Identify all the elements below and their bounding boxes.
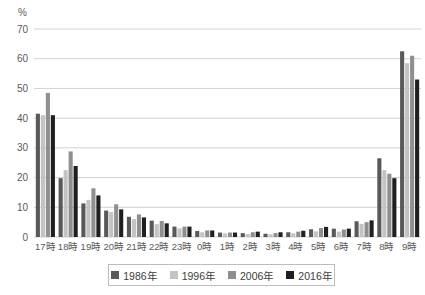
x-tick-label-19時: 19時: [81, 241, 102, 252]
bar-1996年-19時: [86, 200, 90, 237]
bar-1986年-19時: [81, 203, 85, 237]
bar-1986年-17時: [36, 114, 40, 237]
bar-1996年-7時: [360, 224, 364, 237]
bar-2016年-5時: [324, 227, 328, 237]
x-tick-labels: 17時18時19時20時21時22時23時0時1時2時3時4時5時6時7時8時9…: [35, 241, 417, 252]
x-tick-label-23時: 23時: [172, 241, 193, 252]
bar-2006年-4時: [296, 232, 300, 237]
bar-2016年-7時: [370, 220, 374, 237]
bar-2006年-3時: [273, 233, 277, 237]
bar-1996年-23時: [177, 228, 181, 237]
bar-1986年-9時: [400, 51, 404, 237]
bar-1996年-18時: [64, 170, 68, 237]
x-tick-label-4時: 4時: [288, 241, 303, 252]
y-tick-label-0: 0: [22, 232, 28, 243]
bar-2006年-6時: [342, 230, 346, 237]
legend-label: 1996年: [182, 268, 215, 283]
bar-2016年-18時: [74, 166, 78, 237]
x-tick-label-8時: 8時: [379, 241, 394, 252]
x-tick-label-20時: 20時: [103, 241, 124, 252]
legend-item-1986: 1986年: [111, 268, 156, 283]
bar-1996年-3時: [268, 234, 272, 237]
bar-1996年-17時: [41, 115, 45, 237]
bar-2006年-20時: [114, 204, 118, 237]
x-tick-label-18時: 18時: [58, 241, 79, 252]
bar-2016年-21時: [142, 217, 146, 237]
legend-swatch: [111, 271, 119, 279]
bar-1986年-20時: [104, 211, 108, 237]
bar-1996年-1時: [223, 233, 227, 237]
bar-1996年-2時: [246, 234, 250, 237]
bar-1996年-8時: [382, 170, 386, 237]
bar-2006年-8時: [387, 174, 391, 237]
legend-swatch: [228, 271, 236, 279]
hourly-rate-bar-chart: % 010203040506070 17時18時19時20時21時22時23時0…: [0, 0, 425, 295]
y-axis-unit-label: %: [18, 7, 27, 18]
x-tick-label-2時: 2時: [243, 241, 258, 252]
bar-2006年-2時: [251, 232, 255, 237]
bar-2016年-1時: [233, 233, 237, 237]
y-tick-label-10: 10: [17, 202, 29, 213]
bar-2006年-9時: [410, 56, 414, 237]
bar-1996年-22時: [155, 224, 159, 237]
y-tick-label-70: 70: [17, 24, 29, 35]
bar-chart-svg: % 010203040506070 17時18時19時20時21時22時23時0…: [0, 0, 425, 295]
bar-2016年-23時: [187, 227, 191, 237]
bar-2016年-22時: [165, 223, 169, 237]
legend-swatch: [170, 271, 178, 279]
bar-1996年-20時: [109, 212, 113, 237]
bar-2016年-8時: [392, 178, 396, 237]
bar-2016年-2時: [256, 232, 260, 237]
bar-2006年-5時: [319, 228, 323, 237]
bar-1996年-0時: [200, 232, 204, 237]
bar-2016年-17時: [51, 115, 55, 237]
x-tick-label-17時: 17時: [35, 241, 56, 252]
bar-2006年-19時: [91, 188, 95, 237]
x-tick-label-7時: 7時: [356, 241, 371, 252]
y-tick-labels: 010203040506070: [17, 24, 29, 243]
bar-2006年-21時: [137, 214, 141, 237]
x-tick-label-9時: 9時: [402, 241, 417, 252]
bar-1986年-22時: [150, 221, 154, 237]
legend-item-2016: 2016年: [286, 268, 331, 283]
legend-label: 1986年: [123, 268, 156, 283]
bar-2006年-0時: [205, 230, 209, 237]
bar-1996年-4時: [291, 233, 295, 237]
bars-layer: [36, 51, 419, 237]
y-tick-label-30: 30: [17, 142, 29, 153]
legend-item-2006: 2006年: [228, 268, 273, 283]
x-tick-label-21時: 21時: [126, 241, 147, 252]
bar-2006年-23時: [182, 227, 186, 237]
bar-2006年-17時: [46, 93, 50, 237]
bar-2006年-1時: [228, 233, 232, 237]
bar-2006年-18時: [69, 151, 73, 237]
bar-1996年-9時: [405, 63, 409, 237]
x-tick-label-0時: 0時: [197, 241, 212, 252]
x-tick-label-22時: 22時: [149, 241, 170, 252]
bar-1996年-5時: [314, 231, 318, 237]
bar-2016年-20時: [119, 209, 123, 237]
bar-1986年-2時: [241, 233, 245, 237]
bar-1996年-6時: [337, 232, 341, 237]
x-tick-label-3時: 3時: [265, 241, 280, 252]
legend-label: 2016年: [298, 268, 331, 283]
legend: 1986年 1996年 2006年 2016年: [108, 264, 335, 286]
bar-1996年-21時: [132, 219, 136, 237]
y-tick-label-50: 50: [17, 83, 29, 94]
bar-2016年-4時: [301, 231, 305, 237]
bar-1986年-7時: [355, 221, 359, 237]
bar-1986年-23時: [172, 227, 176, 237]
bar-2016年-19時: [96, 195, 100, 237]
bar-1986年-0時: [195, 231, 199, 237]
bar-2006年-7時: [365, 222, 369, 237]
legend-item-1996: 1996年: [170, 268, 215, 283]
legend-label: 2006年: [240, 268, 273, 283]
legend-swatch: [286, 271, 294, 279]
y-tick-label-60: 60: [17, 53, 29, 64]
bar-1986年-3時: [263, 234, 267, 237]
bar-2016年-3時: [278, 232, 282, 237]
x-tick-label-1時: 1時: [220, 241, 235, 252]
bar-1986年-1時: [218, 233, 222, 237]
y-tick-label-20: 20: [17, 172, 29, 183]
bar-1986年-21時: [127, 217, 131, 237]
